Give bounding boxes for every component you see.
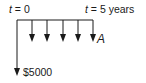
initial-amount-label: $5000 (23, 66, 52, 78)
initial-flow-arrowhead (14, 68, 20, 76)
annuity-label: A (97, 33, 105, 45)
cash-flow-diagram (0, 0, 146, 83)
annuity-arrows (29, 20, 96, 42)
